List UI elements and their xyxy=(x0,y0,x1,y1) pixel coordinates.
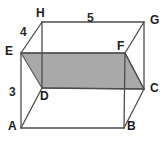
vertex-label-H: H xyxy=(36,7,45,19)
edge-length-label-hg: 5 xyxy=(87,12,94,24)
vertex-label-A: A xyxy=(8,120,17,132)
edge-length-label-ae: 3 xyxy=(9,86,16,98)
prism-figure: A B C D E F G H 4 5 3 xyxy=(0,0,165,146)
vertex-label-E: E xyxy=(5,45,13,57)
edge-length-label-eh: 4 xyxy=(20,26,27,38)
edge-A-D xyxy=(21,88,42,128)
vertex-label-F: F xyxy=(117,40,124,52)
vertex-label-B: B xyxy=(127,120,136,132)
edge-G-F xyxy=(125,22,144,53)
prism-drawing xyxy=(0,0,165,146)
vertex-label-D: D xyxy=(40,90,49,102)
vertex-label-G: G xyxy=(150,14,159,26)
vertex-label-C: C xyxy=(150,82,159,94)
